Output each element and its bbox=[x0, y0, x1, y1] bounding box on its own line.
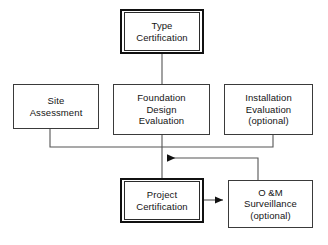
node-label-om-surveillance: O &M Surveillance (optional) bbox=[244, 187, 297, 222]
node-site-assessment[interactable]: Site Assessment bbox=[13, 84, 99, 129]
node-label-installation-evaluation: Installation Evaluation (optional) bbox=[245, 92, 292, 127]
node-inner-frame: Type Certification bbox=[124, 12, 200, 51]
edge-installation-to-junction bbox=[162, 135, 273, 147]
node-label-project-certification: Project Certification bbox=[136, 189, 187, 212]
flow-diagram: Type Certification Site Assessment Found… bbox=[0, 0, 328, 245]
node-label-type-certification: Type Certification bbox=[136, 20, 187, 43]
node-project-certification[interactable]: Project Certification bbox=[120, 178, 204, 223]
node-foundation-design-evaluation[interactable]: Foundation Design Evaluation bbox=[113, 84, 210, 135]
node-label-foundation-design-evaluation: Foundation Design Evaluation bbox=[137, 92, 186, 127]
node-type-certification[interactable]: Type Certification bbox=[120, 9, 204, 54]
node-inner-frame: Project Certification bbox=[124, 181, 200, 220]
node-om-surveillance[interactable]: O &M Surveillance (optional) bbox=[228, 180, 313, 228]
edge-om-feedback-to-junction bbox=[167, 158, 258, 180]
node-installation-evaluation[interactable]: Installation Evaluation (optional) bbox=[224, 84, 313, 135]
node-label-site-assessment: Site Assessment bbox=[30, 95, 83, 118]
